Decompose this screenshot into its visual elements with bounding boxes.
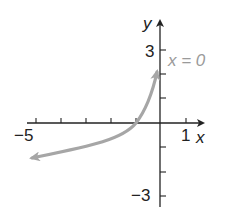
y-min-tick-label: −3 bbox=[131, 186, 150, 205]
y-axis-label: y bbox=[142, 14, 153, 33]
curve bbox=[32, 72, 157, 158]
y-max-tick-label: 3 bbox=[145, 42, 154, 61]
x-max-tick-label: 1 bbox=[181, 126, 190, 145]
graph: y 3 x = 0 −5 1 x −3 bbox=[0, 0, 227, 211]
x-min-tick-label: −5 bbox=[14, 126, 33, 145]
x-ticks bbox=[36, 118, 186, 123]
x-axis-label: x bbox=[195, 128, 205, 147]
asymptote-label: x = 0 bbox=[167, 51, 206, 70]
